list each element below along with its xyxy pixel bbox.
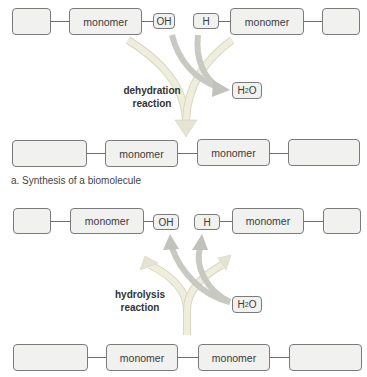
bond-line	[51, 21, 69, 22]
polymer-end-box	[12, 8, 51, 35]
polymer-end-box	[13, 344, 88, 371]
monomer-box: monomer	[69, 8, 142, 35]
arrowhead-to-h-icon	[192, 234, 208, 250]
bond-line	[270, 153, 288, 154]
hydroxyl-group: OH	[153, 214, 179, 230]
arrowhead-to-oh-icon	[163, 234, 179, 250]
polymer-end-box	[289, 344, 362, 371]
label-line-1: dehydration	[112, 84, 192, 97]
label-line-1: hydrolysis	[110, 288, 170, 301]
monomer-box: monomer	[105, 140, 178, 167]
dehydration-label: dehydration reaction	[112, 84, 192, 110]
bond-line	[88, 357, 106, 358]
hydrogen-group: H	[194, 214, 220, 230]
monomer-box: monomer	[198, 344, 270, 371]
hydrogen-group: H	[193, 13, 219, 29]
bond-line	[270, 357, 289, 358]
reaction-arrows	[0, 0, 367, 377]
bond-line	[304, 21, 322, 22]
bond-line	[304, 221, 323, 222]
monomer-box: monomer	[106, 344, 178, 371]
polymer-end-box	[322, 8, 360, 35]
label-line-2: reaction	[110, 301, 170, 314]
arrowhead-to-water-icon	[212, 80, 230, 97]
polymer-end-box	[323, 208, 361, 234]
monomer-box: monomer	[70, 208, 144, 234]
bond-line	[178, 357, 198, 358]
water-molecule: H2O	[232, 296, 262, 313]
bond-line	[142, 21, 153, 22]
label-line-2: reaction	[112, 97, 192, 110]
bond-line	[220, 221, 232, 222]
panel-a-caption: a. Synthesis of a biomolecule	[11, 175, 141, 186]
monomer-box: monomer	[230, 8, 304, 35]
polymer-end-box	[13, 208, 51, 234]
water-molecule: H2O	[232, 82, 262, 99]
bond-line	[51, 221, 70, 222]
monomer-box: monomer	[197, 139, 270, 166]
hydroxyl-group: OH	[153, 13, 175, 29]
water-o: O	[249, 85, 257, 96]
bond-line	[87, 153, 105, 154]
bond-line	[144, 221, 153, 222]
polymer-end-box	[288, 139, 360, 166]
polymer-end-box	[12, 140, 87, 167]
bond-line	[219, 21, 230, 22]
water-o: O	[249, 299, 257, 310]
bond-line	[178, 153, 197, 154]
monomer-box: monomer	[232, 208, 304, 234]
water-h: H	[238, 85, 245, 96]
water-h: H	[238, 299, 245, 310]
arrowhead-down-icon	[175, 120, 197, 137]
hydrolysis-label: hydrolysis reaction	[110, 288, 170, 314]
